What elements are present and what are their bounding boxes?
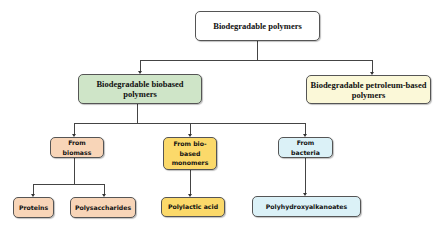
node-label: Biodegradable polymers — [213, 21, 302, 31]
node-label-line2: based — [180, 149, 201, 159]
connector — [33, 184, 34, 194]
node-from-bio-based-monomers: From bio- based monomers — [163, 137, 217, 170]
node-label: Polylactic acid — [168, 202, 218, 212]
connector — [257, 41, 258, 60]
connector — [190, 170, 191, 194]
node-label-line3: monomers — [172, 158, 209, 168]
connector — [33, 184, 105, 185]
connector — [140, 60, 141, 71]
node-from-bacteria: From bacteria — [278, 137, 333, 158]
node-label-line1: From — [297, 138, 315, 148]
node-biodegradable-polymers: Biodegradable polymers — [195, 11, 320, 41]
node-biodegradable-petroleum-based-polymers: Biodegradable petroleum-based polymers — [306, 75, 431, 104]
node-label: Polyhydroxyalkanoates — [266, 202, 347, 212]
node-label: Polysaccharides — [75, 203, 131, 213]
node-label-line2: polymers — [352, 90, 386, 100]
node-polyhydroxyalkanoates: Polyhydroxyalkanoates — [252, 196, 361, 217]
connector — [137, 104, 138, 123]
node-label-line2: polymers — [123, 89, 157, 99]
node-label-line1: From — [68, 138, 86, 148]
node-proteins: Proteins — [13, 197, 54, 218]
connector — [372, 60, 373, 72]
connector — [190, 123, 191, 134]
node-label-line2: biomass — [63, 148, 92, 158]
connector — [104, 184, 105, 194]
node-from-biomass: From biomass — [50, 137, 104, 158]
node-label-line1: Biodegradable biobased — [96, 79, 183, 89]
connector — [140, 60, 373, 61]
node-label: Proteins — [19, 203, 48, 213]
node-label-line1: Biodegradable petroleum-based — [311, 80, 427, 90]
connector — [74, 123, 75, 134]
node-polysaccharides: Polysaccharides — [70, 197, 136, 218]
connector — [74, 158, 75, 184]
connector — [305, 123, 306, 134]
node-polylactic-acid: Polylactic acid — [161, 197, 225, 217]
connector — [305, 158, 306, 193]
node-biodegradable-biobased-polymers: Biodegradable biobased polymers — [78, 74, 202, 104]
node-label-line1: From bio- — [173, 139, 206, 149]
node-label-line2: bacteria — [291, 148, 320, 158]
